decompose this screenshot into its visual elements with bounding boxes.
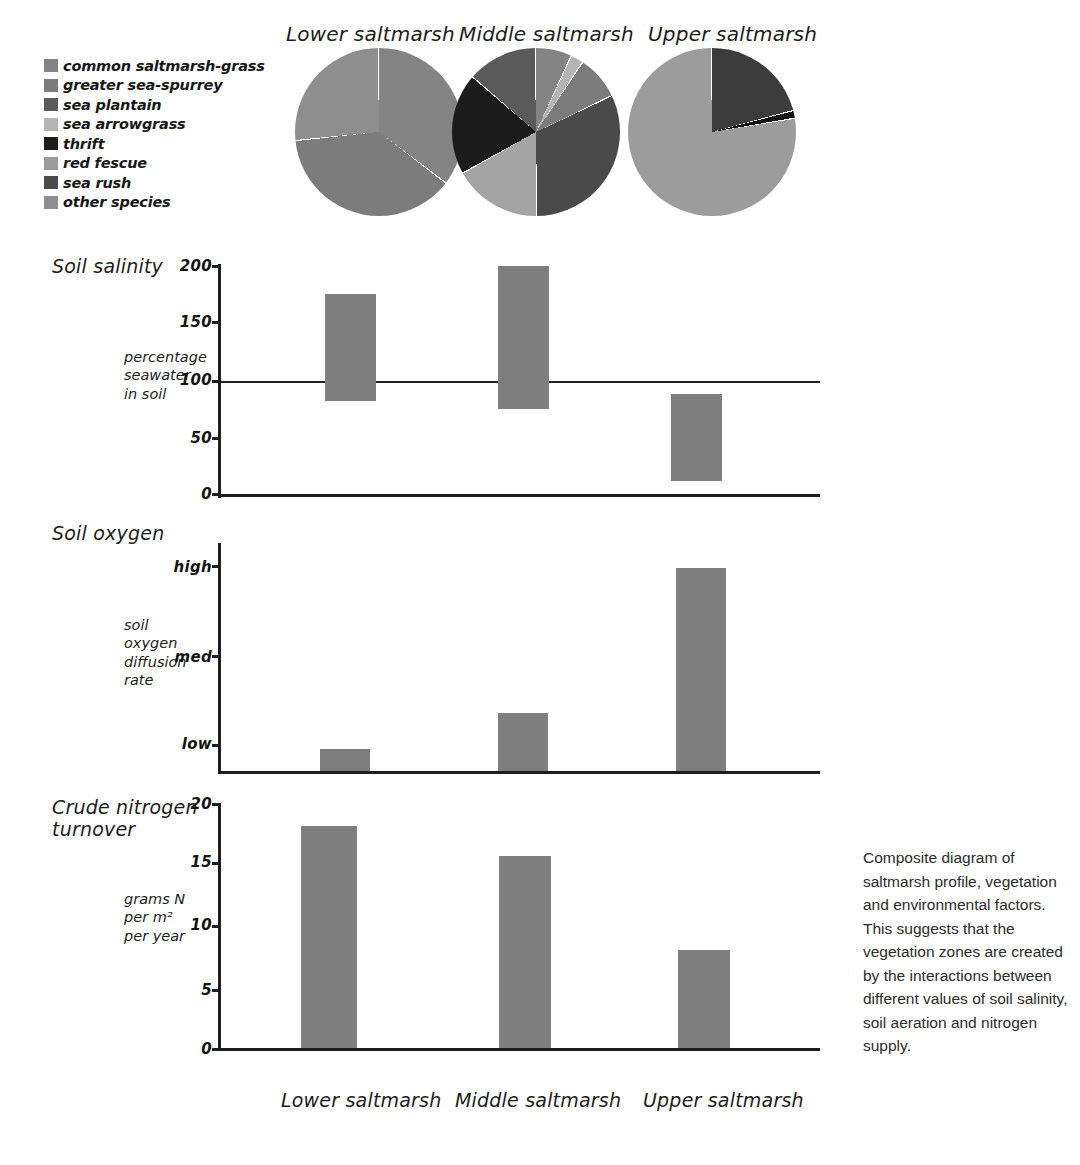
ytick-mark-5 xyxy=(212,989,220,992)
legend-label: red fescue xyxy=(63,155,147,171)
ytick-salinity-0: 0 xyxy=(160,485,212,503)
ytick-mark-15 xyxy=(212,862,220,865)
legend-label: other species xyxy=(63,194,171,210)
bar-salinity-middle xyxy=(498,266,549,409)
species-legend: common saltmarsh-grass greater sea-spurr… xyxy=(44,56,265,212)
ytick-mark-200 xyxy=(212,265,220,268)
ytick-mark-20 xyxy=(212,803,220,806)
ytick-mark-10 xyxy=(212,925,220,928)
ytick-mark-low xyxy=(212,744,220,747)
legend-swatch-red-fescue xyxy=(44,157,58,170)
ytick-nitrogen-15: 15 xyxy=(160,853,212,871)
category-label-middle-saltmarsh: Middle saltmarsh xyxy=(455,1089,621,1111)
legend-label: sea plantain xyxy=(63,97,161,113)
pie-chart-middle-saltmarsh xyxy=(452,48,620,216)
legend-label: common saltmarsh-grass xyxy=(63,58,265,74)
xaxis-salinity xyxy=(218,494,820,497)
xaxis-oxygen xyxy=(218,771,820,774)
bar-oxygen-lower xyxy=(320,749,370,771)
ytick-salinity-150: 150 xyxy=(160,313,212,331)
yaxis-oxygen xyxy=(218,543,221,773)
legend-swatch-sea-plantain xyxy=(44,98,58,111)
ytick-mark-50 xyxy=(212,437,220,440)
bar-nitrogen-middle xyxy=(499,856,551,1048)
ytick-salinity-50: 50 xyxy=(160,429,212,447)
ytick-oxygen-high: high xyxy=(150,558,212,576)
legend-label: sea arrowgrass xyxy=(63,116,186,132)
legend-swatch-common-saltmarsh-grass xyxy=(44,59,58,72)
category-label-lower-saltmarsh: Lower saltmarsh xyxy=(281,1089,441,1111)
legend-swatch-thrift xyxy=(44,137,58,150)
legend-swatch-other-species xyxy=(44,196,58,209)
bar-oxygen-upper xyxy=(676,568,726,771)
legend-item: sea plantain xyxy=(44,95,265,115)
panel-title-soil-oxygen: Soil oxygen xyxy=(52,522,164,544)
legend-label: thrift xyxy=(63,136,104,152)
ytick-mark-high xyxy=(212,565,220,568)
legend-swatch-sea-rush xyxy=(44,176,58,189)
ytick-nitrogen-0: 0 xyxy=(160,1040,212,1058)
pie-title-lower: Lower saltmarsh xyxy=(286,22,455,46)
bar-oxygen-middle xyxy=(498,713,548,771)
pie-chart-lower-saltmarsh xyxy=(295,48,463,216)
bar-nitrogen-lower xyxy=(301,826,357,1048)
pie-title-middle: Middle saltmarsh xyxy=(459,22,634,46)
bar-salinity-upper xyxy=(671,394,722,481)
legend-item: sea rush xyxy=(44,173,265,193)
legend-item: greater sea-spurrey xyxy=(44,76,265,96)
ytick-oxygen-med: med xyxy=(150,648,212,666)
bar-salinity-lower xyxy=(325,294,376,401)
ytick-salinity-200: 200 xyxy=(160,257,212,275)
category-label-upper-saltmarsh: Upper saltmarsh xyxy=(643,1089,804,1111)
legend-item: thrift xyxy=(44,134,265,154)
ytick-nitrogen-5: 5 xyxy=(160,981,212,999)
legend-item: common saltmarsh-grass xyxy=(44,56,265,76)
legend-item: sea arrowgrass xyxy=(44,115,265,135)
xaxis-nitrogen xyxy=(218,1048,820,1051)
figure-caption: Composite diagram of saltmarsh profile, … xyxy=(863,846,1068,1058)
legend-label: greater sea-spurrey xyxy=(63,77,223,93)
legend-item: other species xyxy=(44,193,265,213)
ytick-salinity-100: 100 xyxy=(160,371,212,389)
ytick-mark-100 xyxy=(212,380,220,383)
ytick-nitrogen-20: 20 xyxy=(160,795,212,813)
legend-item: red fescue xyxy=(44,154,265,174)
legend-swatch-sea-arrowgrass xyxy=(44,118,58,131)
ytick-mark-150 xyxy=(212,321,220,324)
ytick-mark-med xyxy=(212,655,220,658)
bar-nitrogen-upper xyxy=(678,950,730,1048)
pie-title-upper: Upper saltmarsh xyxy=(648,22,817,46)
ytick-nitrogen-10: 10 xyxy=(160,916,212,934)
panel-title-soil-salinity: Soil salinity xyxy=(52,255,163,277)
legend-swatch-greater-sea-spurrey xyxy=(44,79,58,92)
pie-chart-upper-saltmarsh xyxy=(628,48,796,216)
ytick-oxygen-low: low xyxy=(150,735,212,753)
legend-label: sea rush xyxy=(63,175,131,191)
